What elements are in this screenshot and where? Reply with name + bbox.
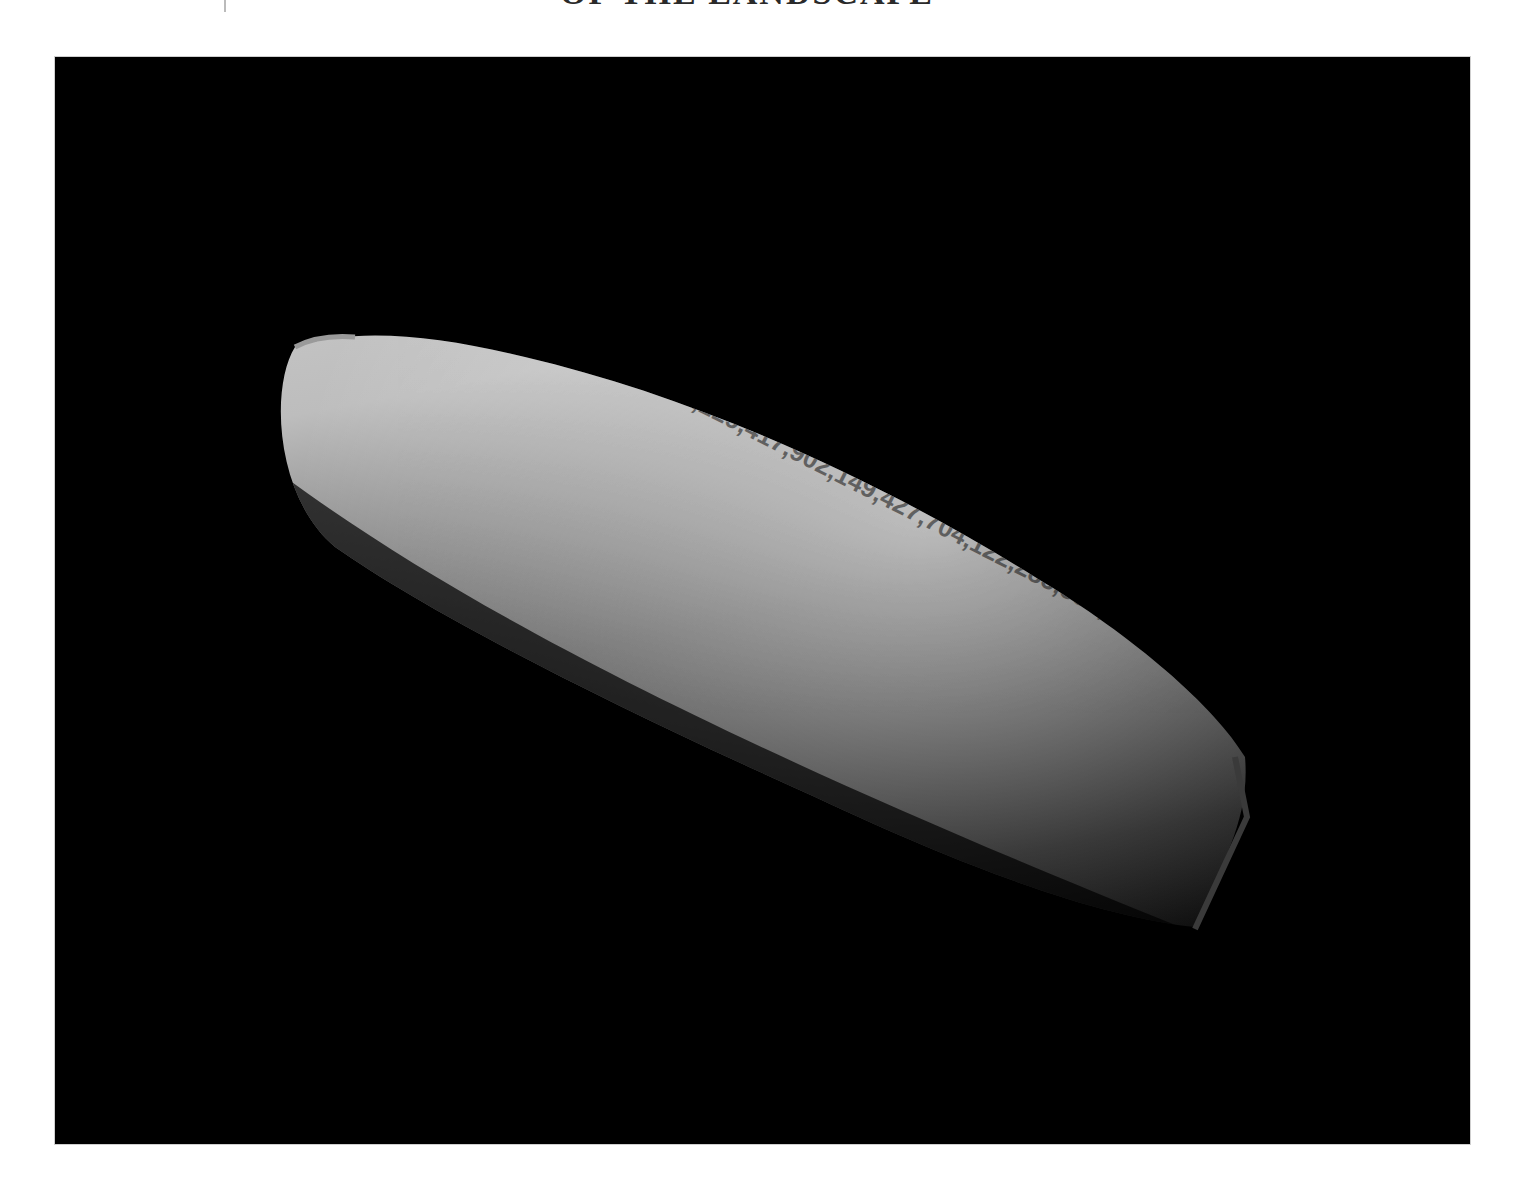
- number-row: 6,94,70,92,62,57,26,93,62,89,50,97,64: [544, 142, 766, 266]
- figure-panel: 6,94,70,92,62,57,26,93,62,89,50,97,64 83…: [54, 56, 1471, 1145]
- scan-mark: [224, 0, 226, 12]
- spindle-render: 6,94,70,92,62,57,26,93,62,89,50,97,64 83…: [55, 57, 1470, 1144]
- page-title-clipped: OF THE LANDSCAPE: [560, 0, 1020, 14]
